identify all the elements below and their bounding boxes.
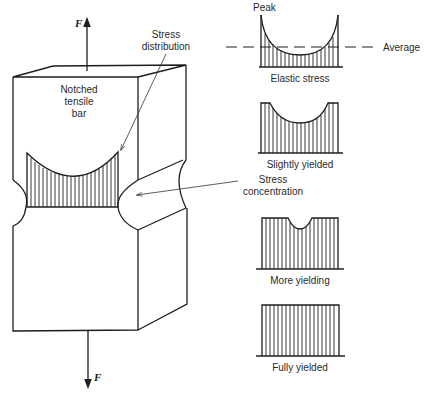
more-outline xyxy=(262,218,338,269)
diagram-canvas: F F Notched tensile bar Stress distribut… xyxy=(0,0,429,393)
stress-distribution-label-line2: distribution xyxy=(142,41,190,52)
force-label-bottom: F xyxy=(93,371,102,383)
notched-tensile-bar xyxy=(13,22,187,384)
right-notch-front xyxy=(118,180,138,230)
bar-label-line3: bar xyxy=(72,108,87,119)
fully-hatch xyxy=(266,305,334,356)
average-label: Average xyxy=(383,42,421,53)
stress-distribution-label-line1: Stress xyxy=(152,29,180,40)
stress-concentration-label-line2: concentration xyxy=(243,186,303,197)
more-hatch xyxy=(266,218,334,269)
elastic-hatch xyxy=(265,34,333,67)
section-stress-hatch xyxy=(31,154,115,207)
profile-label-fully: Fully yielded xyxy=(272,362,328,373)
profile-label-more: More yielding xyxy=(270,275,329,286)
section-stress-outline xyxy=(27,152,118,207)
profile-more-yielding: More yielding xyxy=(256,218,344,286)
profile-slightly-yielded: Slightly yielded xyxy=(258,103,343,170)
stress-distribution-pointer xyxy=(121,54,166,150)
stress-concentration-label-line1: Stress xyxy=(259,174,287,185)
peak-label: Peak xyxy=(253,2,277,13)
profile-elastic: Peak Average Elastic stress xyxy=(226,2,421,84)
profile-label-elastic: Elastic stress xyxy=(271,73,330,84)
right-face-slant-lower xyxy=(138,208,186,230)
right-notch-side xyxy=(179,160,186,208)
profile-fully-yielded: Fully yielded xyxy=(256,305,345,373)
right-face-slant-upper xyxy=(138,160,183,180)
bar-label-line2: tensile xyxy=(65,96,94,107)
profile-label-slightly: Slightly yielded xyxy=(267,159,334,170)
stress-concentration-pointer xyxy=(137,181,238,195)
left-notch xyxy=(13,180,27,226)
bar-label-line1: Notched xyxy=(60,84,97,95)
bar-front-lower xyxy=(13,226,138,331)
force-label-top: F xyxy=(74,17,83,29)
